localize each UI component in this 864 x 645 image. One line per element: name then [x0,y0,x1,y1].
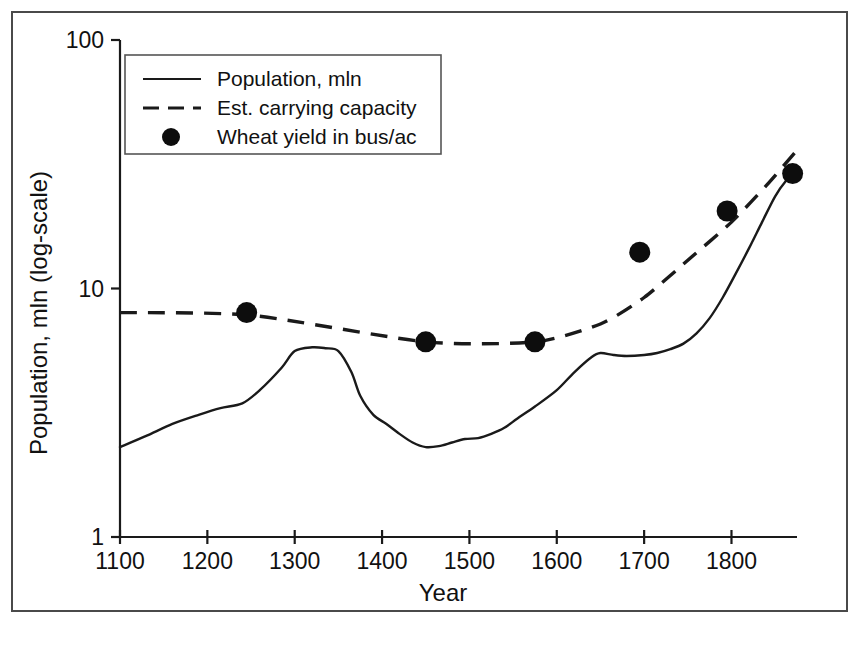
y-axis-title: Population, mln (log-scale) [25,171,52,455]
x-tick-label: 1600 [531,548,582,574]
x-tick-label: 1800 [706,548,757,574]
x-tick-label: 1700 [619,548,670,574]
series-scatter-wheat-yield [236,163,803,352]
y-tick-label: 10 [78,276,104,302]
scatter-point [629,242,650,263]
scatter-point [524,331,545,352]
series-line-population [120,170,797,447]
scatter-point [415,331,436,352]
scatter-point [236,302,257,323]
x-tick-label: 1200 [182,548,233,574]
x-tick-label: 1100 [95,548,144,574]
population-carrying-capacity-chart: 11001200130014001500160017001800 110100 … [13,13,846,610]
legend-marker-filled-circle-icon [162,128,180,146]
legend-entry-label: Population, mln [217,67,362,90]
legend-entry-label: Est. carrying capacity [217,96,417,119]
chart-legend: Population, mlnEst. carrying capacityWhe… [125,55,441,154]
scatter-point [717,201,738,222]
y-tick-label: 1 [91,524,104,550]
x-tick-labels: 11001200130014001500160017001800 [95,548,757,574]
x-tick-label: 1300 [269,548,320,574]
y-tick-label: 100 [66,27,104,53]
x-tick-label: 1400 [356,548,407,574]
series-line-est-carrying-capacity [120,150,797,344]
plot-series [120,150,803,447]
legend-entry-label: Wheat yield in bus/ac [217,125,417,148]
y-tick-marks [111,40,120,537]
y-tick-labels: 110100 [66,27,104,550]
x-tick-label: 1500 [444,548,495,574]
x-axis-title: Year [419,579,468,606]
figure-outer-frame: 11001200130014001500160017001800 110100 … [11,11,848,612]
scatter-point [782,163,803,184]
